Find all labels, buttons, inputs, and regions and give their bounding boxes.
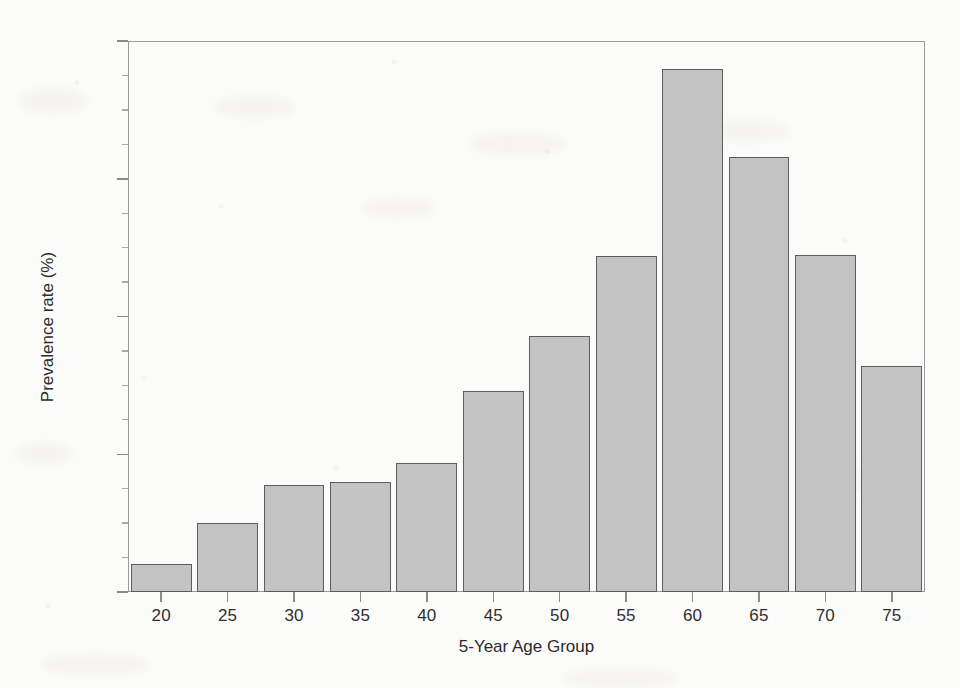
y-minor-tick-mark [122,350,128,351]
y-minor-tick-mark [122,281,128,282]
x-tick-label: 70 [816,606,835,626]
bar-35 [330,482,391,592]
y-minor-tick-mark [122,522,128,523]
y-axis: 0%5%10%15%20% [0,0,128,688]
y-tick-mark [117,591,128,593]
x-tick-label: 50 [550,606,569,626]
bar-65 [729,157,790,592]
x-tick-mark [692,592,694,602]
y-minor-tick-mark [122,109,128,110]
bar-40 [396,463,457,592]
bar-60 [662,69,723,592]
y-axis-title: Prevalence rate (%) [38,217,58,437]
y-minor-tick-mark [122,557,128,558]
x-tick-mark [625,592,627,602]
x-tick-label: 75 [882,606,901,626]
x-tick-label: 30 [284,606,303,626]
y-minor-tick-mark [122,144,128,145]
y-minor-tick-mark [122,385,128,386]
x-tick-label: 40 [417,606,436,626]
x-tick-mark [426,592,428,602]
bars-layer [128,41,925,592]
x-tick-label: 65 [749,606,768,626]
y-minor-tick-mark [122,213,128,214]
y-minor-tick-mark [122,247,128,248]
x-tick-label: 20 [152,606,171,626]
y-tick-mark [117,178,128,180]
y-minor-tick-mark [122,488,128,489]
y-tick-mark [117,316,128,318]
x-tick-mark [160,592,162,602]
y-tick-mark [117,454,128,456]
x-tick-mark [227,592,229,602]
x-tick-label: 45 [484,606,503,626]
bar-30 [264,485,325,592]
bar-20 [131,564,192,592]
bar-55 [596,256,657,592]
bar-chart-figure: 0%5%10%15%20% 202530354045505560657075 P… [0,0,960,688]
x-tick-mark [559,592,561,602]
y-minor-tick-mark [122,419,128,420]
x-tick-label: 55 [616,606,635,626]
y-minor-tick-mark [122,75,128,76]
y-tick-mark [117,40,128,42]
bar-45 [463,391,524,592]
bar-50 [529,336,590,592]
x-tick-mark [493,592,495,602]
bar-25 [197,523,258,592]
bar-70 [795,255,856,592]
x-tick-mark [891,592,893,602]
x-tick-mark [758,592,760,602]
x-tick-label: 60 [683,606,702,626]
x-axis-title: 5-Year Age Group [128,637,925,657]
x-tick-label: 35 [351,606,370,626]
bar-75 [861,366,922,592]
x-tick-mark [293,592,295,602]
x-tick-mark [825,592,827,602]
x-tick-mark [360,592,362,602]
x-tick-label: 25 [218,606,237,626]
